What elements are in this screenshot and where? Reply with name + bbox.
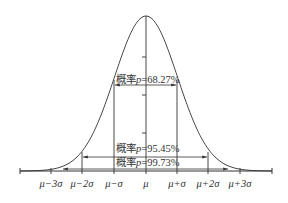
tick-label-mean: μ	[142, 178, 148, 189]
tick-label-minus-3sigma: μ−3σ	[39, 178, 64, 189]
tick-label-plus-3sigma: μ+3σ	[228, 178, 253, 189]
interval-1sigma-label: 概率p=68.27%	[116, 73, 180, 85]
tick-label-minus-1sigma: μ−σ	[104, 178, 123, 189]
interval-3sigma-label: 概率p=99.73%	[116, 156, 180, 168]
tick-label-plus-2sigma: μ+2σ	[196, 178, 221, 189]
interval-2sigma-label: 概率p=95.45%	[116, 142, 180, 154]
normal-distribution-diagram: 概率p=68.27% 概率p=95.45% 概率p=99.73% μ−3σ μ−…	[0, 0, 288, 203]
tick-label-plus-1sigma: μ+σ	[167, 178, 186, 189]
tick-label-minus-2sigma: μ−2σ	[70, 178, 95, 189]
